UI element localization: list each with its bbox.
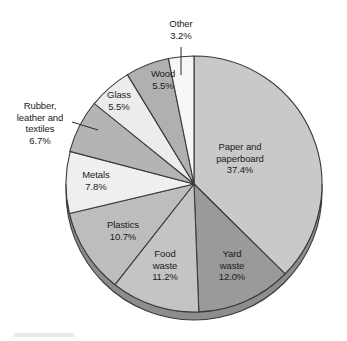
pie-chart: Paper and paperboard 37.4% Yard waste 12… bbox=[0, 0, 347, 341]
pie-label-rubber-leather-textiles: Rubber, leather and textiles 6.7% bbox=[4, 100, 76, 146]
pie-label-metals: Metals 7.8% bbox=[68, 169, 124, 192]
pie-label-yard-waste: Yard waste 12.0% bbox=[203, 248, 261, 283]
pie-label-wood: Wood 5.5% bbox=[138, 68, 188, 91]
pie-label-paper-and-paperboard: Paper and paperboard 37.4% bbox=[196, 141, 284, 176]
pie-label-other: Other 3.2% bbox=[150, 18, 212, 41]
pie-label-food-waste: Food waste 11.2% bbox=[136, 248, 194, 283]
pie-chart-svg bbox=[0, 0, 347, 341]
page-artifact bbox=[14, 333, 74, 337]
pie-label-plastics: Plastics 10.7% bbox=[92, 219, 154, 242]
pie-label-glass: Glass 5.5% bbox=[94, 89, 144, 112]
